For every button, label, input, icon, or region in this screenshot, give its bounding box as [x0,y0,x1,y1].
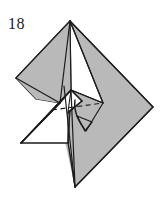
origami-figure: 18 [0,0,167,202]
origami-diagram-svg [0,0,167,202]
step-number-label: 18 [8,16,25,32]
